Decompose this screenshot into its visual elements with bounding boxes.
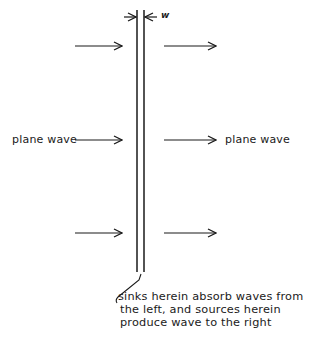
note-line-2: the left, and sources herein (118, 303, 303, 316)
incident-arrows (75, 46, 122, 233)
thickness-label: w (161, 10, 169, 20)
right-wave-label: plane wave (225, 133, 290, 146)
slab (137, 10, 144, 272)
transmitted-arrows (164, 46, 216, 233)
diagram-graphics (0, 0, 309, 339)
note-line-1: sinks herein absorb waves from (118, 290, 303, 303)
left-wave-label: plane wave (12, 133, 77, 146)
annotation-note: sinks herein absorb waves from the left,… (118, 290, 303, 329)
note-line-3: produce wave to the right (118, 316, 303, 329)
